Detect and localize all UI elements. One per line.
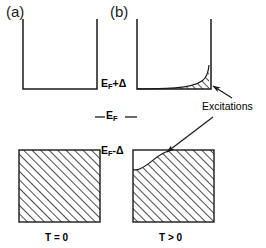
energy-label-fermi-main: E	[106, 109, 113, 121]
panel-b-upper-band-outline	[137, 19, 211, 89]
panel-label-b: (b)	[110, 3, 128, 20]
energy-label-upper-sub: F	[108, 82, 113, 91]
temperature-label-a: T = 0	[45, 232, 68, 243]
panel-a-lower-band-fill	[19, 150, 100, 222]
excitations-label: Excitations	[202, 100, 253, 112]
energy-label-fermi-sub: F	[113, 114, 118, 123]
panel-b-upper-excitation-fill	[137, 65, 209, 89]
temperature-label-b: T > 0	[159, 232, 182, 243]
energy-label-lower-sub: F	[108, 149, 113, 158]
energy-label-lower-tail: -Δ	[113, 144, 124, 156]
energy-label-upper-main: E	[101, 77, 108, 89]
energy-label-upper-tail: +Δ	[113, 77, 127, 89]
energy-label-fermi: EF	[106, 110, 118, 121]
excitations-arrow-upper	[213, 86, 232, 98]
energy-label-lower-main: E	[101, 144, 108, 156]
excitations-arrow-lower	[167, 117, 213, 152]
energy-label-lower: EF-Δ	[101, 145, 124, 156]
diagram-svg	[0, 0, 266, 248]
panel-b-lower-band	[133, 150, 214, 222]
energy-label-upper: EF+Δ	[101, 78, 126, 89]
excitations-arrows	[167, 86, 232, 152]
panel-label-a: (a)	[6, 3, 24, 20]
panel-a-upper-band	[23, 19, 97, 89]
panel-b-upper-band	[137, 19, 211, 89]
panel-a-lower-band	[19, 150, 100, 222]
panel-a-upper-band-outline	[23, 19, 97, 89]
figure-canvas: (a) (b) EF+Δ EF EF-Δ Excitations T = 0 T…	[0, 0, 266, 248]
